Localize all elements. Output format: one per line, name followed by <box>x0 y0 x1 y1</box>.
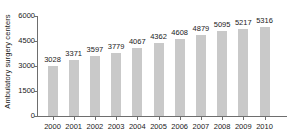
y-tick-mark <box>34 91 37 92</box>
y-tick-mark <box>34 66 37 67</box>
bar <box>154 43 164 116</box>
x-tick-mark <box>95 117 96 120</box>
y-axis-title: Ambulatory surgery centers <box>0 0 14 122</box>
bar <box>175 39 185 116</box>
y-tick-label: 1500 <box>18 87 35 95</box>
bar-value-label: 5316 <box>252 17 278 25</box>
bar <box>90 56 100 116</box>
y-tick-label: 3000 <box>18 62 35 70</box>
x-tick-mark <box>222 117 223 120</box>
bar <box>196 35 206 116</box>
x-tick-mark <box>53 117 54 120</box>
plot-area: 3028337135973779406743624608487950955217… <box>37 16 287 117</box>
x-axis-tick-labels: 2000200120022003200420052006200720082009… <box>37 122 289 136</box>
y-tick-mark <box>34 116 37 117</box>
x-tick-mark <box>159 117 160 120</box>
x-tick-mark <box>265 117 266 120</box>
bar <box>260 27 270 116</box>
y-axis-title-text: Ambulatory surgery centers <box>3 14 12 108</box>
y-tick-mark <box>34 16 37 17</box>
y-tick-label: 4500 <box>18 37 35 45</box>
x-tick-mark <box>243 117 244 120</box>
x-tick-mark <box>116 117 117 120</box>
x-tick-mark <box>180 117 181 120</box>
bar <box>132 48 142 116</box>
bar <box>48 66 58 116</box>
x-tick-mark <box>74 117 75 120</box>
y-axis-line <box>37 16 38 117</box>
bar <box>111 53 121 116</box>
bar <box>217 31 227 116</box>
y-tick-label: 6000 <box>18 12 35 20</box>
x-tick-mark <box>201 117 202 120</box>
bar-chart: Ambulatory surgery centers 0150030004500… <box>0 0 289 139</box>
x-tick-mark <box>137 117 138 120</box>
bar <box>69 60 79 116</box>
x-tick-label: 2010 <box>252 122 278 131</box>
y-axis-tick-labels: 01500300045006000 <box>13 0 35 139</box>
y-tick-mark <box>34 41 37 42</box>
bar <box>238 29 248 116</box>
